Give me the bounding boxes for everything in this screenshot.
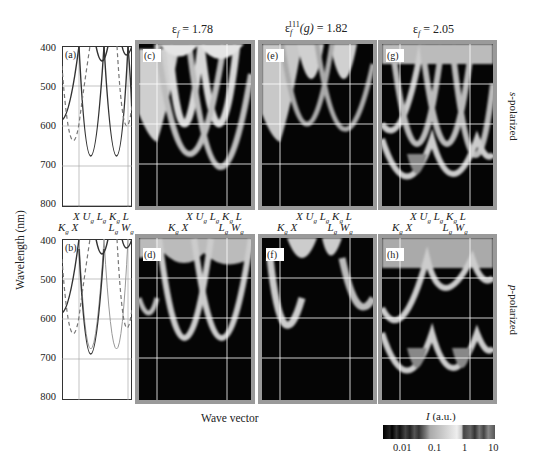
colorbar-tick: 0.01	[393, 442, 411, 453]
svg-text:(c): (c)	[144, 50, 155, 62]
panel-d-heatmap: (d)	[135, 234, 255, 404]
panel-e-heatmap: (e)	[258, 40, 377, 210]
y-tick: 800	[30, 391, 56, 402]
colorbar-title: I (a.u.)	[426, 410, 456, 422]
svg-text:(h): (h)	[387, 249, 399, 261]
y-tick: 700	[30, 159, 56, 170]
y-tick: 600	[30, 120, 56, 131]
y-tick: 700	[30, 352, 56, 363]
y-tick: 600	[30, 313, 56, 324]
panel-a-band-plot: (a)	[62, 46, 132, 207]
k-labels-lower-c: Kg X Lg Wg	[168, 221, 244, 236]
colorbar-tick: 10	[488, 442, 499, 453]
panel-label-b: (b)	[65, 242, 77, 254]
panel-b-band-plot: (b)	[62, 239, 132, 400]
svg-text:(g): (g)	[387, 50, 399, 62]
panel-g-heatmap: (g)	[378, 40, 497, 210]
svg-text:(f): (f)	[267, 249, 277, 261]
svg-text:(e): (e)	[267, 50, 278, 62]
k-labels-lower-e: Kg X Lg Wg	[277, 221, 353, 236]
k-labels-lower-g: Kg X Lg Wg	[392, 221, 468, 236]
y-tick: 500	[30, 81, 56, 92]
y-tick: 800	[30, 198, 56, 209]
colorbar-tick: 1	[462, 442, 467, 453]
y-tick: 400	[30, 42, 56, 53]
column-title-2: εf111(g) = 1.82	[285, 20, 347, 37]
panel-c-heatmap: (c)	[135, 40, 255, 210]
panel-f-heatmap: (f)	[258, 234, 377, 404]
svg-text:(d): (d)	[144, 249, 156, 261]
y-axis-label: Wavelength (nm)	[14, 210, 26, 290]
row-label-s-polarized: s-polarized	[508, 92, 520, 141]
panel-h-heatmap: (h)	[378, 234, 497, 404]
y-tick: 500	[30, 274, 56, 285]
column-title-1: εf = 1.78	[172, 22, 213, 38]
panel-label-a: (a)	[65, 49, 76, 61]
column-title-3: εf = 2.05	[413, 22, 454, 38]
colorbar	[383, 425, 495, 439]
x-axis-label: Wave vector	[201, 412, 259, 424]
k-labels-lower-a: Kg X Lg Wg	[58, 221, 134, 236]
colorbar-tick: 0.1	[428, 442, 441, 453]
y-tick: 400	[30, 235, 56, 246]
row-label-p-polarized: p-polarized	[508, 285, 520, 335]
